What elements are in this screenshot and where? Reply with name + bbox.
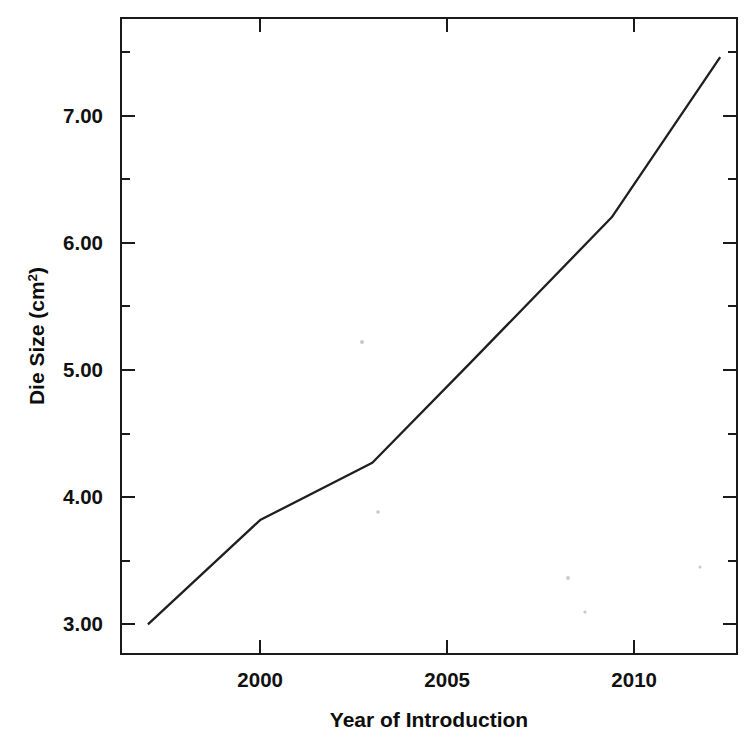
y-tick-label: 5.00	[63, 358, 103, 381]
y-axis-tick-labels: 3.004.005.006.007.00	[63, 104, 103, 636]
y-axis-ticks-left	[121, 52, 135, 624]
y-axis-title-base: Die Size (cm	[25, 281, 48, 405]
y-axis-title-superscript: 2	[25, 274, 40, 282]
y-tick-label: 3.00	[63, 612, 103, 635]
y-tick-label: 4.00	[63, 485, 103, 508]
data-series-line	[148, 57, 720, 624]
x-tick-label: 2010	[611, 668, 657, 691]
x-tick-label: 2005	[424, 668, 470, 691]
y-tick-label: 7.00	[63, 104, 103, 127]
line-chart: 3.004.005.006.007.00 200020052010 Die Si…	[0, 0, 747, 742]
x-axis-tick-labels: 200020052010	[237, 668, 657, 691]
scan-artifacts	[360, 340, 702, 614]
y-axis-title: Die Size (cm2)	[25, 267, 48, 405]
scan-speck	[566, 576, 570, 580]
x-tick-label: 2000	[237, 668, 283, 691]
y-axis-title-group: Die Size (cm2)	[25, 267, 48, 405]
scan-speck	[583, 610, 586, 613]
scan-speck	[360, 340, 364, 344]
x-axis-ticks-top	[260, 18, 634, 32]
x-axis-title: Year of Introduction	[330, 708, 528, 731]
y-tick-label: 6.00	[63, 231, 103, 254]
plot-frame	[121, 18, 737, 654]
chart-figure: 3.004.005.006.007.00 200020052010 Die Si…	[0, 0, 747, 742]
x-axis-ticks-bottom	[260, 640, 634, 654]
scan-speck	[376, 510, 380, 514]
y-axis-title-tail: )	[25, 267, 48, 274]
scan-speck	[699, 566, 702, 569]
y-axis-ticks-right	[723, 52, 737, 624]
